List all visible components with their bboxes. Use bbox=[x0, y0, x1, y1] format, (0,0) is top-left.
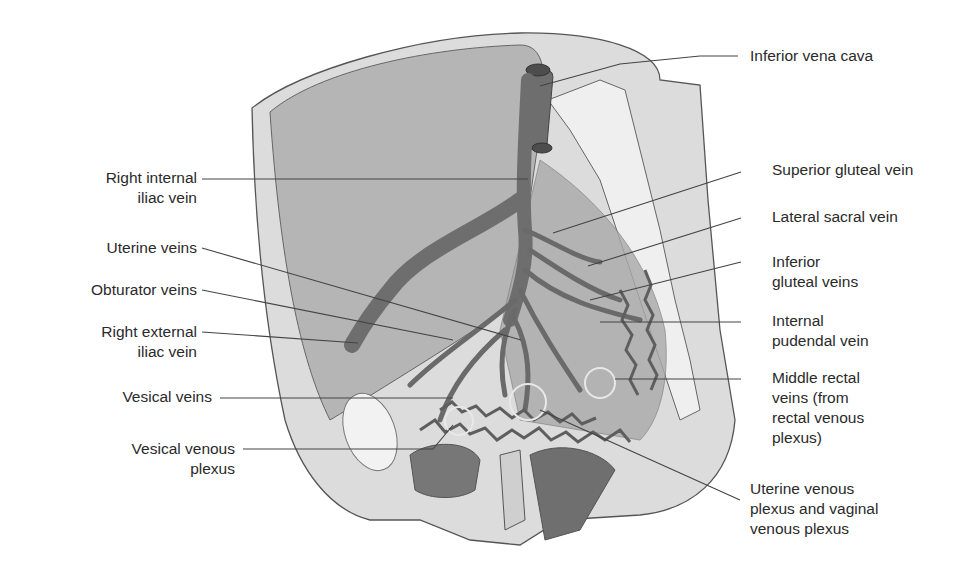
label-right-external-iliac-vein: Right external iliac vein bbox=[101, 322, 197, 362]
label-right-internal-iliac-vein: Right internal iliac vein bbox=[106, 168, 197, 208]
ivc-cut-end bbox=[532, 143, 552, 153]
label-superior-gluteal-vein: Superior gluteal vein bbox=[772, 160, 913, 180]
label-uterine-veins: Uterine veins bbox=[107, 238, 197, 258]
uterus-vagina bbox=[500, 450, 525, 530]
label-internal-pudendal-vein: Internal pudendal vein bbox=[772, 311, 869, 351]
label-uterine-vaginal-venous-plexus: Uterine venous plexus and vaginal venous… bbox=[750, 479, 878, 539]
label-inferior-gluteal-veins: Inferior gluteal veins bbox=[772, 252, 858, 292]
label-middle-rectal-veins: Middle rectal veins (from rectal venous … bbox=[772, 368, 864, 448]
label-vesical-venous-plexus: Vesical venous plexus bbox=[132, 439, 235, 479]
bladder bbox=[410, 444, 480, 497]
label-obturator-veins: Obturator veins bbox=[91, 280, 197, 300]
label-vesical-veins: Vesical veins bbox=[122, 387, 212, 407]
label-inferior-vena-cava: Inferior vena cava bbox=[750, 46, 873, 66]
label-lateral-sacral-vein: Lateral sacral vein bbox=[772, 207, 898, 227]
